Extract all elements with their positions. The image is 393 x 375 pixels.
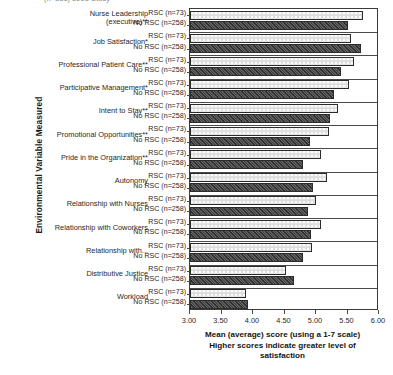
group-tick-label: No RSC (n=258) [124,205,186,213]
group-tick-mark [187,188,190,189]
group-tick-label: RSC (n=73) [124,32,186,40]
group-tick-mark [187,25,190,26]
group-tick-label-column: RSC (n=73)No RSC (n=258)RSC (n=73)No RSC… [126,8,188,310]
bar-no-rsc [190,21,348,30]
group-tick-mark [187,142,190,143]
bar-no-rsc [190,137,310,146]
group-tick-mark [187,108,190,109]
group-tick-label: RSC (n=73) [124,218,186,226]
group-tick-label: No RSC (n=258) [124,182,186,190]
x-axis-tick-mark [252,310,253,314]
group-tick-label: RSC (n=73) [124,172,186,180]
group-tick-mark [187,224,190,225]
group-tick-label: RSC (n=73) [124,102,186,110]
plot-area [189,8,378,310]
group-tick-mark [187,118,190,119]
horizontal-bar-chart: (n=331) 2003 Study Environmental Variabl… [0,0,393,375]
bar-no-rsc [190,114,330,123]
bar-rsc [190,289,246,298]
x-axis-tick-marks [189,310,378,315]
bar-rsc [190,34,351,43]
group-tick-label: No RSC (n=258) [124,275,186,283]
bar-no-rsc [190,253,303,262]
group-tick-mark [187,248,190,249]
group-tick-mark [187,131,190,132]
group-tick-label: RSC (n=73) [124,79,186,87]
group-tick-mark [187,15,190,16]
group-tick-mark [187,165,190,166]
x-axis-tick-mark [221,310,222,314]
bar-no-rsc [190,183,313,192]
x-axis-tick-mark [315,310,316,314]
group-tick-label: RSC (n=73) [124,195,186,203]
group-tick-mark [187,95,190,96]
group-tick-label: No RSC (n=258) [124,66,186,74]
group-tick-label: RSC (n=73) [124,265,186,273]
bar-no-rsc [190,300,248,309]
bar-rsc [190,243,312,252]
group-tick-mark [187,62,190,63]
x-axis-tick-mark [378,310,379,314]
group-tick-label: RSC (n=73) [124,56,186,64]
group-tick-label: No RSC (n=258) [124,252,186,260]
group-tick-label: RSC (n=73) [124,242,186,250]
group-tick-mark [187,258,190,259]
bar-rsc [190,196,316,205]
group-tick-mark [187,155,190,156]
group-tick-label: No RSC (n=258) [124,112,186,120]
bar-rsc [190,80,349,89]
x-axis-title-line-1: Mean (average) score (using a 1-7 scale) [172,330,393,341]
bar-rsc [190,127,329,136]
x-axis-title-line-2: Higher scores indicate greater level of [172,341,393,352]
bar-rsc [190,150,321,159]
group-tick-mark [187,211,190,212]
bar-rsc [190,104,338,113]
bar-rsc [190,220,321,229]
group-tick-mark [187,271,190,272]
x-axis-tick-labels: 3.003.504.004.505.005.506.00 [155,316,393,328]
group-tick-mark [187,281,190,282]
chart-top-partial-title: (n=331) 2003 Study [44,0,194,4]
x-axis-title: Mean (average) score (using a 1-7 scale)… [172,330,393,362]
bar-rsc [190,57,354,66]
x-axis-tick-mark [284,310,285,314]
group-tick-mark [187,85,190,86]
x-axis-tick-mark [347,310,348,314]
group-tick-mark [187,294,190,295]
bar-no-rsc [190,276,294,285]
group-tick-label: No RSC (n=258) [124,228,186,236]
group-tick-mark [187,38,190,39]
group-tick-mark [187,178,190,179]
group-tick-label: No RSC (n=258) [124,298,186,306]
group-tick-mark [187,49,190,50]
group-tick-label: No RSC (n=258) [124,89,186,97]
bar-rsc [190,173,327,182]
x-axis-tick-label: 6.00 [358,316,393,325]
bar-no-rsc [190,67,341,76]
group-tick-label: RSC (n=73) [124,149,186,157]
bar-no-rsc [190,160,303,169]
bar-rsc [190,11,363,20]
x-axis-title-line-3: satisfaction [172,351,393,362]
group-tick-mark [187,234,190,235]
group-tick-label: RSC (n=73) [124,9,186,17]
group-tick-mark [187,201,190,202]
bar-no-rsc [190,207,308,216]
group-tick-label: No RSC (n=258) [124,159,186,167]
bar-no-rsc [190,90,334,99]
bar-rsc [190,266,286,275]
group-tick-mark [187,72,190,73]
group-tick-label: No RSC (n=258) [124,19,186,27]
group-tick-label: RSC (n=73) [124,288,186,296]
x-axis-tick-mark [189,310,190,314]
group-tick-mark [187,304,190,305]
bar-no-rsc [190,44,361,53]
bar-no-rsc [190,230,311,239]
group-tick-label: No RSC (n=258) [124,43,186,51]
group-tick-label: No RSC (n=258) [124,136,186,144]
group-tick-label: RSC (n=73) [124,125,186,133]
